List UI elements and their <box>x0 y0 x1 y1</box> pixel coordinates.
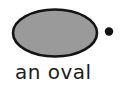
oval-shape <box>13 10 97 57</box>
flashcard: an oval <box>0 0 126 90</box>
bullet-dot-icon <box>105 27 113 35</box>
shape-illustration <box>0 0 126 66</box>
shape-label: an oval <box>15 60 92 85</box>
